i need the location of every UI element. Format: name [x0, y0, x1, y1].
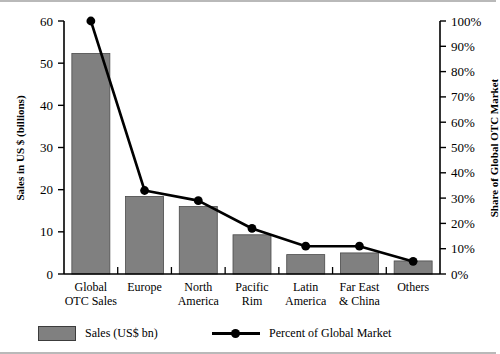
left-axis-ticks: 0102030405060	[40, 14, 64, 282]
bar	[287, 255, 325, 274]
left-tick-label: 10	[40, 224, 53, 239]
line-marker	[248, 224, 257, 233]
chart-legend: Sales (US$ bn) Percent of Global Market	[0, 324, 496, 350]
left-tick-label: 40	[40, 98, 53, 113]
legend-line-label: Percent of Global Market	[269, 326, 391, 341]
line-marker	[355, 242, 364, 251]
line-marker	[140, 186, 149, 195]
right-tick-label: 70%	[451, 89, 475, 104]
right-tick-label: 30%	[451, 191, 475, 206]
legend-item-sales: Sales (US$ bn)	[38, 326, 158, 341]
right-tick-label: 50%	[451, 140, 475, 155]
bar	[179, 207, 217, 274]
right-axis-ticks: 0%10%20%30%40%50%60%70%80%90%100%	[440, 14, 482, 282]
left-tick-label: 30	[40, 140, 53, 155]
legend-item-percent: Percent of Global Market	[212, 326, 391, 341]
right-tick-label: 90%	[451, 39, 475, 54]
bar	[126, 196, 164, 274]
line-marker	[86, 17, 95, 26]
x-axis-category-label: Others	[368, 280, 458, 294]
right-tick-label: 80%	[451, 64, 475, 79]
right-tick-label: 20%	[451, 216, 475, 231]
bar	[233, 235, 271, 274]
line-marker	[301, 242, 310, 251]
legend-line-marker	[212, 327, 260, 340]
line-marker	[194, 196, 203, 205]
legend-bar-label: Sales (US$ bn)	[85, 326, 158, 341]
line-marker	[409, 257, 418, 266]
right-tick-label: 40%	[451, 165, 475, 180]
right-tick-label: 10%	[451, 241, 475, 256]
bar-series	[72, 53, 432, 274]
right-tick-label: 100%	[451, 14, 482, 29]
bar	[72, 53, 110, 274]
right-tick-label: 60%	[451, 115, 475, 130]
legend-bar-swatch	[38, 326, 76, 341]
left-tick-label: 20	[40, 182, 53, 197]
bar	[340, 253, 378, 274]
left-tick-label: 50	[40, 56, 53, 71]
left-tick-label: 60	[40, 14, 53, 29]
